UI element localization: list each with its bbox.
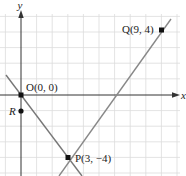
coordinate-plane: x y O(0, 0) Q(9, 4) P(3, −4) R — [0, 0, 186, 176]
point-P — [66, 155, 71, 160]
point-R — [18, 108, 23, 113]
label-P: P(3, −4) — [75, 152, 111, 165]
y-axis-label: y — [17, 0, 23, 11]
label-O: O(0, 0) — [26, 81, 58, 94]
point-Q — [159, 28, 164, 33]
x-axis-label: x — [180, 89, 186, 101]
label-Q: Q(9, 4) — [122, 23, 154, 36]
label-R: R — [8, 105, 16, 117]
x-axis-arrow-icon — [172, 92, 180, 97]
y-axis-arrow-icon — [18, 10, 23, 18]
point-O — [19, 93, 24, 98]
